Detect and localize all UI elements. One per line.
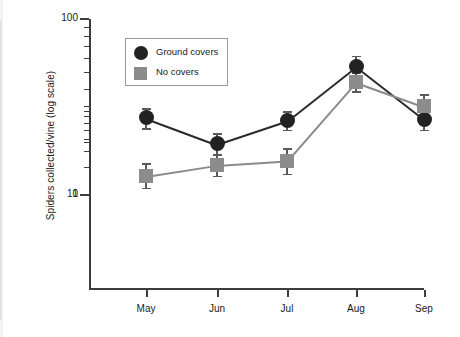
error-bar-cap [283, 130, 292, 132]
data-point-circle [139, 110, 154, 125]
page-edge-artifact-inner [0, 20, 2, 320]
y-tick-minor [84, 116, 89, 117]
error-bar-cap [352, 91, 361, 93]
data-point-square [349, 75, 363, 89]
x-tick [146, 290, 148, 297]
legend: Ground covers No covers [125, 38, 228, 86]
error-bar-cap [283, 174, 292, 176]
data-point-square [280, 154, 294, 168]
x-tick-label: Jun [194, 303, 240, 314]
x-tick-label: Jul [264, 303, 310, 314]
series-line-segment [217, 161, 287, 167]
y-tick-minor [84, 111, 89, 112]
data-point-square [210, 158, 224, 172]
y-tick-minor [84, 142, 89, 143]
data-point-circle [280, 113, 295, 128]
y-tick-major [80, 194, 89, 196]
error-bar-cap [142, 188, 151, 190]
data-point-square [417, 99, 431, 113]
y-tick-minor [84, 72, 89, 73]
error-bar-cap [213, 154, 222, 156]
chart-figure: Spiders collected/vine (log scale) 10010… [0, 0, 460, 337]
x-tick-label: Sep [401, 303, 447, 314]
x-tick-label: Aug [333, 303, 379, 314]
error-bar-cap [283, 148, 292, 150]
y-axis-line [89, 19, 91, 290]
x-tick [424, 290, 426, 297]
x-tick [217, 290, 219, 297]
data-point-circle [210, 136, 225, 151]
error-bar-cap [142, 128, 151, 130]
series-line-segment [146, 165, 217, 178]
square-marker-icon [134, 67, 147, 80]
series-line-segment [146, 118, 218, 146]
y-tick-minor [84, 46, 89, 47]
y-tick-major [80, 18, 89, 20]
series-line-segment [356, 82, 425, 108]
y-tick-minor [84, 106, 89, 107]
y-tick-label: 100 [0, 12, 78, 23]
series-line-segment [217, 121, 287, 146]
y-tick-minor [84, 130, 89, 131]
x-tick-label: May [123, 303, 169, 314]
y-tick-minor [84, 58, 89, 59]
y-tick-minor [84, 36, 89, 37]
y-tick-minor [84, 27, 89, 28]
y-tick-minor [84, 89, 89, 90]
y-tick-minor [84, 123, 89, 124]
circle-marker-icon [134, 46, 148, 60]
data-point-circle [417, 112, 432, 127]
error-bar-cap [420, 130, 429, 132]
data-point-circle [349, 59, 364, 74]
data-point-square [139, 169, 153, 183]
error-bar-cap [352, 56, 361, 58]
y-tick-label: 1 [0, 188, 78, 199]
legend-label: Ground covers [156, 46, 218, 57]
x-tick [287, 290, 289, 297]
y-tick-minor [84, 167, 89, 168]
error-bar-cap [420, 94, 429, 96]
x-axis-line [89, 288, 424, 290]
y-tick-minor [84, 151, 89, 152]
y-axis-title: Spiders collected/vine (log scale) [45, 36, 56, 256]
error-bar-cap [213, 133, 222, 135]
error-bar-cap [213, 176, 222, 178]
error-bar-cap [142, 163, 151, 165]
legend-label: No covers [156, 66, 199, 77]
y-tick-minor [84, 139, 89, 140]
x-tick [356, 290, 358, 297]
